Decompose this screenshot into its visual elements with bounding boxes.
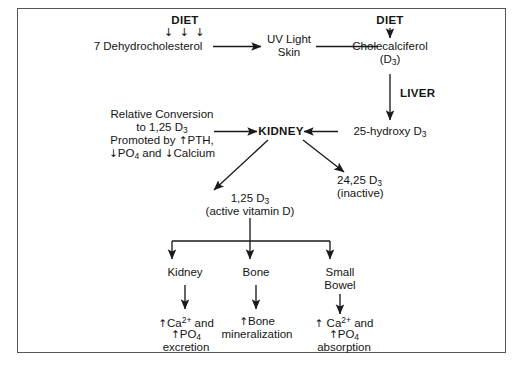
node-target-small-bowel-line2: Bowel — [324, 279, 355, 293]
node-2425-d3-inactive-line2: (inactive) — [337, 187, 384, 201]
diet-left-down-arrows-icon: ↓ ↓ ↓ — [164, 27, 206, 40]
node-cholecalciferol: Cholecalciferol — [352, 40, 427, 54]
effect-bowel-line3: absorption — [317, 341, 371, 355]
label-liver: LIVER — [400, 87, 435, 101]
up-arrow-icon: ↑ — [171, 328, 180, 340]
diagram-border — [17, 8, 506, 353]
down-arrow-icon: ↓ — [109, 147, 118, 159]
down-arrow-icon: ↓ — [165, 147, 174, 159]
node-skin: Skin — [278, 46, 300, 60]
effect-kidney-line3: excretion — [163, 341, 210, 355]
node-25-hydroxy-d3: 25-hydroxy D3 — [353, 125, 426, 139]
node-125-d3-active-line2: (active vitamin D) — [206, 205, 295, 219]
effect-bone-line2: mineralization — [222, 328, 293, 342]
node-diet-right: DIET — [376, 14, 403, 28]
up-arrow-icon: ↑ — [179, 134, 188, 146]
node-relative-conversion-line1: Relative Conversion — [111, 108, 214, 122]
node-uv-light: UV Light — [267, 33, 311, 47]
node-cholecalciferol-subscript: (D3) — [380, 53, 401, 67]
node-target-small-bowel-line1: Small — [326, 266, 355, 280]
effect-bone-line1: ↑Bone — [239, 315, 275, 329]
node-target-bone: Bone — [243, 266, 270, 280]
up-arrow-icon: ↑ — [329, 328, 338, 340]
vitamin-d-pathway-figure: DIET ↓ ↓ ↓ 7 Dehydrocholesterol UV Light… — [0, 0, 521, 368]
node-target-kidney: Kidney — [167, 266, 202, 280]
node-relative-conversion-line3: Promoted by ↑PTH, — [110, 134, 213, 148]
node-kidney-organ: KIDNEY — [258, 125, 303, 139]
up-arrow-icon: ↑ — [315, 317, 324, 329]
up-arrow-icon: ↑ — [239, 315, 248, 327]
up-arrow-icon: ↑ — [158, 317, 167, 329]
node-7-dehydrocholesterol: 7 Dehydrocholesterol — [94, 40, 203, 54]
node-relative-conversion-line4: ↓PO4 and ↓Calcium — [109, 147, 215, 161]
